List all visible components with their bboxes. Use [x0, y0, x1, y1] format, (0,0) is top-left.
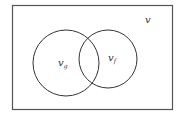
universe-label: v [145, 14, 151, 25]
set-g-label: vg [58, 57, 68, 70]
set-f-label: vf [108, 52, 118, 65]
venn-diagram: v vg vf [0, 0, 179, 118]
